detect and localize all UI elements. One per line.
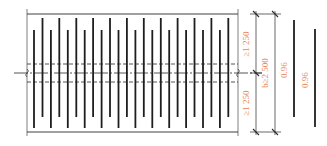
bar-length-label-2: 0.96 — [300, 72, 310, 88]
stripe-marking-diagram: ≥1 250 ≥1 250 b≥2 500 0.96 0.96 — [0, 0, 327, 146]
lower-dimension-label: ≥1 250 — [241, 90, 251, 116]
total-width-label: b≥2 500 — [260, 58, 270, 88]
bar-length-label-1: 0.96 — [279, 62, 289, 78]
upper-dimension-label: ≥1 250 — [241, 31, 251, 57]
